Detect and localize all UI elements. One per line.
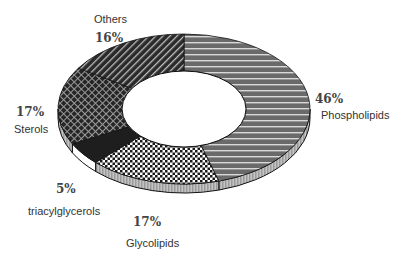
others-percent: 16%	[95, 31, 123, 45]
donut-chart	[0, 0, 401, 262]
glycolipids-label: Glycolipids	[126, 237, 179, 249]
donut-slices	[58, 34, 310, 193]
phospholipids-label: Phospholipids	[321, 109, 390, 121]
donut-hole	[122, 71, 246, 147]
others-label: Others	[94, 13, 127, 25]
sterols-label: Sterols	[14, 123, 48, 135]
glycolipids-percent: 17%	[133, 215, 161, 229]
phospholipids-percent: 46%	[315, 92, 343, 106]
triacylglycerols-label: triacylglycerols	[28, 205, 100, 217]
triacylglycerols-percent: 5%	[56, 182, 76, 196]
sterols-percent: 17%	[16, 105, 44, 119]
